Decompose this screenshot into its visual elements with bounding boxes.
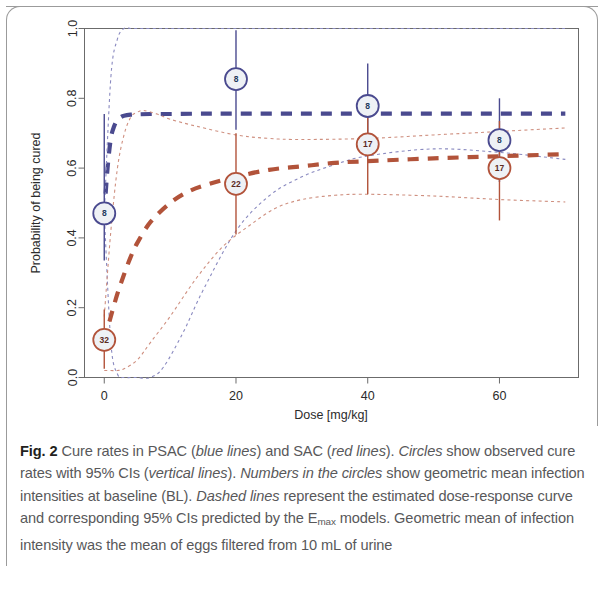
data-point-bubble[interactable]: 32 bbox=[93, 329, 115, 351]
bubble-intensity-label: 8 bbox=[234, 74, 239, 84]
y-tick-label: 0.0 bbox=[66, 369, 80, 386]
caption-fragment-13: max bbox=[317, 517, 335, 528]
caption-fragment-7: vertical lines bbox=[149, 465, 228, 481]
x-axis-title: Dose [mg/kg] bbox=[294, 408, 368, 422]
bubble-intensity-label: 17 bbox=[495, 163, 505, 173]
y-axis-title: Probability of being cured bbox=[29, 132, 43, 273]
y-tick-label: 0.2 bbox=[66, 299, 80, 316]
x-tick-label: 0 bbox=[101, 389, 108, 403]
dose-response-plot: 888832221717 0.00.20.40.60.81.0 0204060 … bbox=[0, 0, 602, 432]
figure-label: Fig. 2 bbox=[20, 443, 58, 459]
data-point-bubble[interactable]: 8 bbox=[488, 129, 510, 151]
error-bars-layer bbox=[104, 30, 499, 369]
bubble-intensity-label: 8 bbox=[497, 135, 502, 145]
y-tick-label: 0.4 bbox=[66, 229, 80, 246]
bubble-intensity-label: 17 bbox=[363, 139, 373, 149]
caption-fragment-1: blue lines bbox=[196, 443, 257, 459]
curves-layer bbox=[104, 28, 565, 379]
data-point-bubble[interactable]: 8 bbox=[357, 95, 379, 117]
caption-fragment-4: ). bbox=[386, 443, 399, 459]
data-point-bubble[interactable]: 17 bbox=[488, 157, 510, 179]
plot-svg: 888832221717 0.00.20.40.60.81.0 0204060 … bbox=[0, 0, 602, 432]
bubble-intensity-label: 32 bbox=[100, 335, 110, 345]
x-tick-label: 60 bbox=[493, 389, 507, 403]
caption-fragment-2: ) and SAC ( bbox=[256, 443, 331, 459]
figure-caption-body: Cure rates in PSAC (blue lines) and SAC … bbox=[20, 443, 585, 553]
x-tick-label: 40 bbox=[361, 389, 375, 403]
plot-panel-frame bbox=[85, 29, 579, 378]
y-tick-label: 1.0 bbox=[66, 20, 80, 37]
y-axis-tick-labels: 0.00.20.40.60.81.0 bbox=[66, 20, 80, 386]
data-point-bubble[interactable]: 17 bbox=[357, 133, 379, 155]
x-axis-tick-labels: 0204060 bbox=[101, 389, 507, 403]
bubble-intensity-label: 8 bbox=[102, 208, 107, 218]
figure-card: 888832221717 0.00.20.40.60.81.0 0204060 … bbox=[0, 0, 602, 609]
dose-response-curve bbox=[104, 154, 565, 341]
y-tick-label: 0.8 bbox=[66, 90, 80, 107]
data-points-layer: 888832221717 bbox=[93, 68, 510, 351]
caption-fragment-9: Numbers in the circles bbox=[240, 465, 382, 481]
confidence-interval-curve bbox=[104, 149, 565, 378]
x-axis-ticks bbox=[104, 378, 499, 384]
data-point-bubble[interactable]: 8 bbox=[93, 202, 115, 224]
caption-fragment-5: Circles bbox=[399, 443, 443, 459]
data-point-bubble[interactable]: 8 bbox=[225, 68, 247, 90]
bubble-intensity-label: 8 bbox=[365, 101, 370, 111]
y-tick-label: 0.6 bbox=[66, 159, 80, 176]
x-tick-label: 20 bbox=[229, 389, 243, 403]
data-point-bubble[interactable]: 22 bbox=[225, 173, 247, 195]
caption-fragment-3: red lines bbox=[332, 443, 386, 459]
figure-caption: Fig. 2 Cure rates in PSAC (blue lines) a… bbox=[20, 440, 586, 557]
caption-fragment-11: Dashed lines bbox=[196, 488, 279, 504]
bubble-intensity-label: 22 bbox=[231, 179, 241, 189]
caption-fragment-0: Cure rates in PSAC ( bbox=[61, 443, 195, 459]
y-axis-ticks bbox=[79, 29, 85, 378]
confidence-interval-curve bbox=[104, 194, 565, 370]
caption-fragment-8: ). bbox=[227, 465, 240, 481]
